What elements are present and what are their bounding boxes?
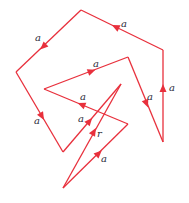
label-a-top-right: a — [121, 18, 127, 29]
edge-right-top-to-top — [81, 10, 163, 50]
label-r-resultant: r — [97, 128, 103, 139]
arrow-icon — [160, 84, 167, 92]
label-a-return: a — [80, 91, 86, 102]
edge-top-to-left — [16, 10, 81, 72]
label-a-right-diagonal: a — [147, 91, 153, 102]
edge-inner-left-to-inner-top — [44, 57, 128, 89]
edge-bottom-to-right-tip — [63, 124, 128, 188]
label-a-right-vertical: a — [169, 82, 175, 93]
label-a-left-lower: a — [34, 115, 40, 126]
label-a-top-left: a — [35, 32, 41, 43]
vector-diagram: a a a a a a a a a r — [0, 0, 189, 203]
label-a-inner-upper: a — [93, 58, 99, 69]
label-a-inner-diagonal: a — [78, 113, 84, 124]
vector-polygon-figure: a a a a a a a a a r — [0, 0, 189, 203]
label-a-bottom: a — [101, 153, 107, 164]
edge-inner-top-to-right-bottom — [128, 57, 163, 142]
resultant-vector-r — [63, 84, 121, 188]
arrow-icon — [110, 22, 120, 32]
